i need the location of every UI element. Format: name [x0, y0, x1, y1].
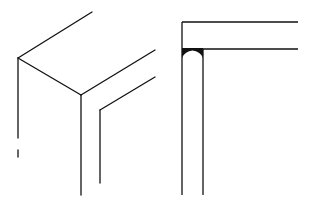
top-back-edge: [18, 12, 92, 58]
inner-top-edge: [100, 77, 155, 110]
top-diagonal-edge: [18, 58, 81, 95]
isometric-corner-figure: [18, 12, 155, 195]
diagram-canvas: [0, 0, 310, 210]
top-right-edge: [81, 50, 155, 95]
elevation-corner-figure: [182, 22, 298, 195]
arch-notch-fill: [182, 48, 203, 58]
